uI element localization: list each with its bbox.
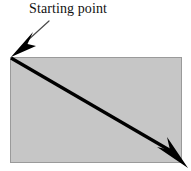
starting-point-label: Starting point — [29, 1, 107, 17]
diagram-canvas — [0, 0, 191, 171]
figure-root: Starting point — [0, 0, 191, 171]
